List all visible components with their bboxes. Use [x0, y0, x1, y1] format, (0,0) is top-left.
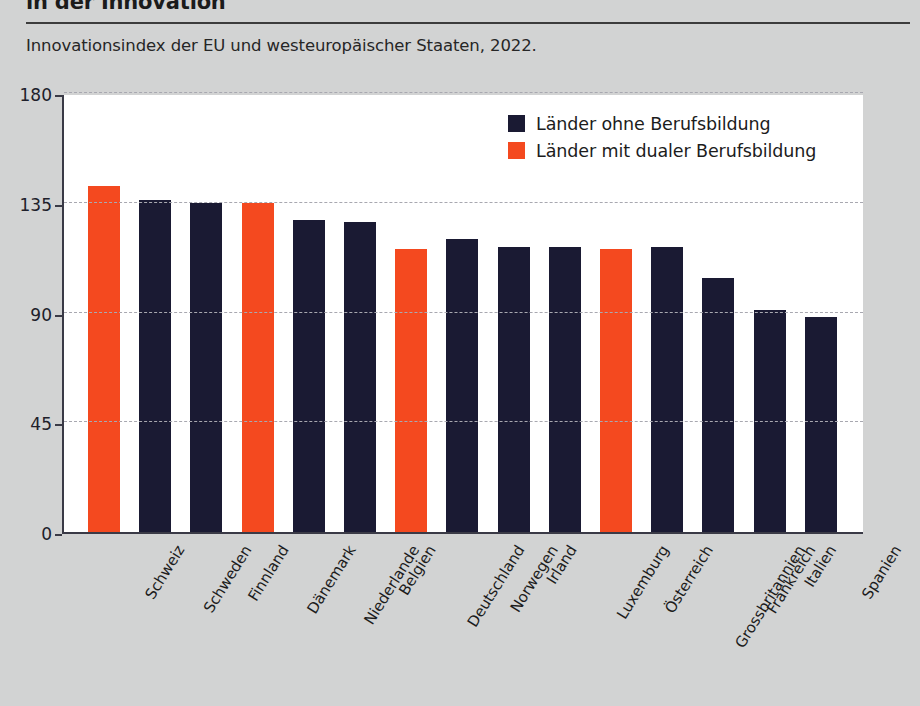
bar-frankreich	[702, 278, 734, 532]
x-axis-labels: SchweizSchwedenFinnlandDänemarkNiederlan…	[62, 534, 863, 704]
gridline-135	[64, 202, 863, 203]
x-tick-label-schweiz: Schweiz	[141, 542, 188, 603]
y-tick-mark-135	[55, 205, 62, 207]
legend-label-ohne: Länder ohne Berufsbildung	[536, 114, 771, 134]
y-tick-label-180: 180	[4, 85, 52, 105]
bar-dänemark	[242, 203, 274, 532]
y-tick-label-0: 0	[4, 524, 52, 544]
bar-österreich	[600, 249, 632, 532]
chart-subtitle: Innovationsindex der EU und westeuropäis…	[26, 36, 537, 55]
legend-label-dual: Länder mit dualer Berufsbildung	[536, 141, 816, 161]
bar-schweden	[139, 200, 171, 532]
bar-grossbritannien	[651, 247, 683, 532]
bar-norwegen	[446, 239, 478, 532]
title-divider	[26, 22, 910, 24]
y-tick-mark-45	[55, 424, 62, 426]
bar-luxemburg	[549, 247, 581, 532]
bar-belgien	[344, 222, 376, 532]
bar-spanien	[805, 317, 837, 532]
gridline-45	[64, 421, 863, 422]
chart-legend: Länder ohne Berufsbildung Länder mit dua…	[508, 110, 816, 164]
legend-item-ohne: Länder ohne Berufsbildung	[508, 110, 816, 137]
y-tick-label-45: 45	[4, 414, 52, 434]
y-tick-label-90: 90	[4, 305, 52, 325]
x-tick-label-dänemark: Dänemark	[303, 542, 359, 617]
page-title: in der Innovation	[26, 0, 886, 16]
x-tick-label-luxemburg: Luxemburg	[613, 542, 672, 622]
bar-deutschland	[395, 249, 427, 532]
gridline-90	[64, 312, 863, 313]
x-tick-label-spanien: Spanien	[858, 542, 905, 602]
legend-swatch-orange	[508, 142, 525, 159]
bar-finnland	[190, 203, 222, 532]
y-tick-mark-180	[55, 95, 62, 97]
bar-irland	[498, 247, 530, 532]
legend-swatch-navy	[508, 115, 525, 132]
y-tick-mark-90	[55, 315, 62, 317]
bar-niederlande	[293, 220, 325, 532]
y-tick-mark-0	[55, 534, 62, 536]
bar-schweiz	[88, 186, 120, 532]
chart-page: in der Innovation Innovationsindex der E…	[0, 0, 920, 706]
x-tick-label-schweden: Schweden	[200, 542, 256, 616]
gridline-180	[64, 92, 863, 93]
legend-item-dual: Länder mit dualer Berufsbildung	[508, 137, 816, 164]
y-tick-label-135: 135	[4, 195, 52, 215]
